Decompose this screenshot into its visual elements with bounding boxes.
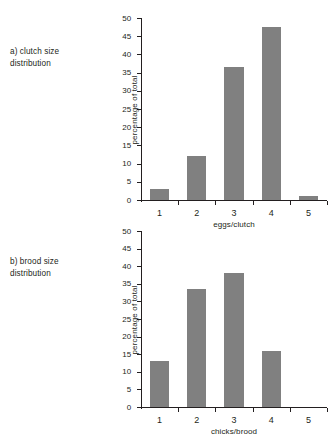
panel-a-y-tick-20: 20 xyxy=(137,127,141,128)
panel-a-bar-3 xyxy=(224,67,243,200)
panel-b-caption: b) brood size distribution xyxy=(10,256,110,279)
panel-b-x-tick-label-1: 1 xyxy=(157,416,162,425)
panel-b-y-tick-label-20: 20 xyxy=(122,333,131,341)
panel-a-y-tick-25: 25 xyxy=(137,109,141,110)
panel-a-x-tick-1 xyxy=(178,201,179,205)
panel-b-y-tick-label-45: 45 xyxy=(122,245,131,253)
panel-a-y-tick-30: 30 xyxy=(137,91,141,92)
panel-b-y-tick-20: 20 xyxy=(137,337,141,338)
panel-b-y-tick-label-30: 30 xyxy=(122,298,131,306)
panel-a-x-tick-3 xyxy=(253,201,254,205)
panel-b-y-tick-label-5: 5 xyxy=(127,386,132,394)
panel-b-bar-4 xyxy=(262,351,281,407)
panel-a-caption: a) clutch size distribution xyxy=(10,46,110,69)
panel-a-y-axis-line xyxy=(141,18,142,202)
panel-b-y-tick-15: 15 xyxy=(137,354,141,355)
panel-a-bar-1 xyxy=(150,189,169,200)
panel-a-y-tick-label-40: 40 xyxy=(122,51,131,59)
panel-b-x-tick-label-4: 4 xyxy=(269,416,274,425)
panel-a-y-tick-35: 35 xyxy=(137,73,141,74)
panel-b-y-tick-25: 25 xyxy=(137,319,141,320)
panel-a-y-tick-label-30: 30 xyxy=(122,87,131,95)
panel-b-y-tick-50: 50 xyxy=(137,231,141,232)
panel-b-plot-area: percentage of total chicks/brood 0510152… xyxy=(141,231,327,408)
panel-a-y-tick-label-0: 0 xyxy=(127,197,132,205)
panel-a-y-tick-0: 0 xyxy=(137,200,141,201)
panel-b-y-tick-40: 40 xyxy=(137,266,141,267)
panel-b-x-tick-2 xyxy=(215,408,216,412)
panel-a-y-tick-5: 5 xyxy=(137,182,141,183)
panel-a-y-tick-label-45: 45 xyxy=(122,33,131,41)
panel-a-y-tick-10: 10 xyxy=(137,164,141,165)
panel-b-y-tick-label-40: 40 xyxy=(122,263,131,271)
panel-b-y-tick-35: 35 xyxy=(137,284,141,285)
panel-a-y-tick-label-25: 25 xyxy=(122,106,131,114)
panel-a-x-tick-2 xyxy=(215,201,216,205)
panel-a-caption-line-1: a) clutch size xyxy=(10,46,110,58)
panel-a-x-axis-line xyxy=(141,200,327,201)
panel-b-x-tick-4 xyxy=(290,408,291,412)
panel-a-x-tick-4 xyxy=(290,201,291,205)
panel-b-bar-1 xyxy=(150,361,169,407)
panel-b-x-tick-label-5: 5 xyxy=(306,416,311,425)
panel-b-bar-2 xyxy=(187,289,206,407)
panel-b-x-tick-3 xyxy=(253,408,254,412)
panel-a-bar-2 xyxy=(187,156,206,200)
panel-a-y-tick-45: 45 xyxy=(137,36,141,37)
panel-b-caption-line-2: distribution xyxy=(10,268,110,280)
panel-b-y-tick-label-10: 10 xyxy=(122,368,131,376)
panel-b-x-tick-label-2: 2 xyxy=(194,416,199,425)
panel-b-y-axis-line xyxy=(141,231,142,409)
figure-panel-a: a) clutch size distribution percentage o… xyxy=(0,0,336,216)
panel-a-y-tick-15: 15 xyxy=(137,145,141,146)
panel-a-y-tick-40: 40 xyxy=(137,54,141,55)
panel-a-y-tick-label-15: 15 xyxy=(122,142,131,150)
panel-b-x-axis-title: chicks/brood xyxy=(211,427,257,436)
figure-panel-b: b) brood size distribution percentage of… xyxy=(0,216,336,432)
panel-b-y-tick-30: 30 xyxy=(137,301,141,302)
panel-a-y-tick-label-10: 10 xyxy=(122,160,131,168)
panel-a-y-tick-label-35: 35 xyxy=(122,69,131,77)
panel-b-y-tick-label-35: 35 xyxy=(122,280,131,288)
panel-b-x-axis-line xyxy=(141,407,327,408)
panel-b-y-tick-10: 10 xyxy=(137,372,141,373)
panel-b-x-tick-1 xyxy=(178,408,179,412)
panel-b-caption-line-1: b) brood size xyxy=(10,256,110,268)
panel-b-y-tick-label-15: 15 xyxy=(122,351,131,359)
panel-a-y-tick-label-50: 50 xyxy=(122,15,131,23)
panel-b-y-tick-label-25: 25 xyxy=(122,316,131,324)
panel-a-caption-line-2: distribution xyxy=(10,58,110,70)
panel-b-y-tick-label-50: 50 xyxy=(122,228,131,236)
panel-a-y-tick-label-20: 20 xyxy=(122,124,131,132)
panel-b-x-tick-5 xyxy=(327,408,328,412)
panel-b-x-tick-label-3: 3 xyxy=(231,416,236,425)
panel-a-bar-4 xyxy=(262,27,281,200)
panel-b-y-tick-5: 5 xyxy=(137,389,141,390)
panel-b-y-tick-label-0: 0 xyxy=(127,404,132,412)
panel-b-y-tick-45: 45 xyxy=(137,249,141,250)
panel-a-y-tick-label-5: 5 xyxy=(127,178,132,186)
panel-a-x-tick-5 xyxy=(327,201,328,205)
panel-a-plot-area: percentage of total eggs/clutch 05101520… xyxy=(141,18,327,201)
panel-a-y-tick-50: 50 xyxy=(137,18,141,19)
panel-b-y-tick-0: 0 xyxy=(137,407,141,408)
panel-a-bar-5 xyxy=(299,196,318,200)
panel-b-bar-3 xyxy=(224,273,243,407)
